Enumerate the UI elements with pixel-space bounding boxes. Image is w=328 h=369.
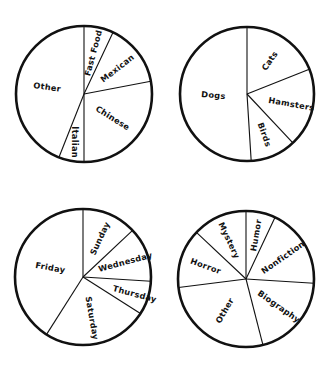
pie-chart-4: HumorNonfictionBiographyOtherHorrorMyste… [178, 211, 314, 347]
pie-chart-2: CatsHamstersBirdsDogs [180, 27, 315, 161]
slice-label: Italian [70, 126, 80, 158]
slice-label: Dogs [201, 89, 226, 101]
pie-charts-svg: Fast FoodMexicanChineseItalianOtherCatsH… [0, 0, 328, 369]
pie-charts-figure: Fast FoodMexicanChineseItalianOtherCatsH… [0, 0, 328, 369]
pie-chart-1: Fast FoodMexicanChineseItalianOther [16, 26, 152, 162]
pie-chart-3: SundayWednesdayThursdaySaturdayFriday [15, 209, 158, 345]
